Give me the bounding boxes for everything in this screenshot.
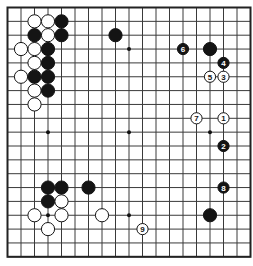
move-number-label: 5: [208, 73, 213, 82]
star-point: [46, 130, 50, 134]
black-stone[interactable]: [41, 181, 54, 194]
white-stone[interactable]: [41, 223, 54, 236]
numbered-move-7[interactable]: 7: [191, 113, 202, 124]
white-stone[interactable]: [28, 42, 41, 55]
numbered-move-9[interactable]: 9: [137, 224, 148, 235]
numbered-move-6[interactable]: 6: [177, 43, 188, 54]
black-stone[interactable]: [203, 209, 216, 222]
black-stone[interactable]: [55, 29, 68, 42]
black-stone[interactable]: [41, 42, 54, 55]
white-stone[interactable]: [28, 84, 41, 97]
black-stone[interactable]: [55, 181, 68, 194]
move-number-label: 2: [221, 142, 226, 151]
black-stone[interactable]: [28, 29, 41, 42]
black-stone[interactable]: [41, 195, 54, 208]
move-number-label: 4: [221, 59, 226, 68]
white-stone[interactable]: [28, 98, 41, 111]
white-stone[interactable]: [55, 195, 68, 208]
numbered-move-3[interactable]: 3: [218, 71, 229, 82]
white-stone[interactable]: [28, 15, 41, 28]
white-stone[interactable]: [55, 209, 68, 222]
numbered-move-2[interactable]: 2: [218, 140, 229, 151]
move-number-label: 6: [181, 45, 186, 54]
black-stone[interactable]: [109, 29, 122, 42]
black-stone[interactable]: [41, 84, 54, 97]
white-stone[interactable]: [14, 70, 27, 83]
go-board[interactable]: 123456789: [0, 0, 253, 266]
white-stone[interactable]: [95, 209, 108, 222]
white-stone[interactable]: [28, 209, 41, 222]
black-stone[interactable]: [28, 70, 41, 83]
numbered-move-4[interactable]: 4: [218, 57, 229, 68]
black-stone[interactable]: [82, 181, 95, 194]
black-stone[interactable]: [203, 42, 216, 55]
move-number-label: 8: [221, 184, 226, 193]
black-stone[interactable]: [55, 15, 68, 28]
move-number-label: 3: [221, 73, 226, 82]
star-point: [208, 130, 212, 134]
star-point: [127, 130, 131, 134]
black-stone[interactable]: [41, 56, 54, 69]
white-stone[interactable]: [41, 29, 54, 42]
numbered-move-1[interactable]: 1: [218, 113, 229, 124]
star-point: [127, 47, 131, 51]
black-stone[interactable]: [41, 70, 54, 83]
star-point: [46, 213, 50, 217]
numbered-move-5[interactable]: 5: [204, 71, 215, 82]
star-point: [127, 213, 131, 217]
move-number-label: 9: [140, 225, 145, 234]
white-stone[interactable]: [28, 56, 41, 69]
white-stone[interactable]: [14, 42, 27, 55]
move-number-label: 7: [194, 114, 199, 123]
numbered-move-8[interactable]: 8: [218, 182, 229, 193]
white-stone[interactable]: [41, 15, 54, 28]
move-number-label: 1: [221, 114, 226, 123]
